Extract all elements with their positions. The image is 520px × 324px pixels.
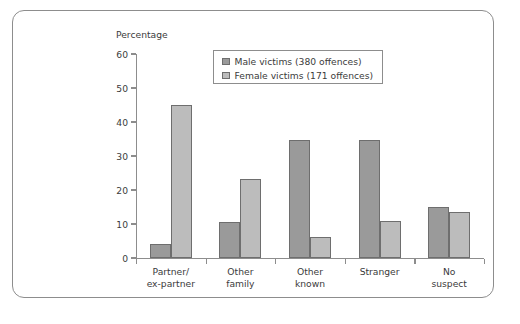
y-tick-mark: [131, 121, 136, 122]
x-tick-mark: [136, 259, 137, 264]
y-tick-mark: [131, 87, 136, 88]
y-tick-mark: [131, 223, 136, 224]
x-tick-mark: [414, 259, 415, 264]
x-axis-line: [136, 258, 484, 259]
y-axis-line: [136, 54, 137, 259]
legend-swatch-male-icon: [222, 58, 230, 66]
y-tick-label: 10: [102, 219, 128, 230]
x-tick-mark: [275, 259, 276, 264]
x-tick-label-line: known: [267, 278, 353, 290]
bar: [449, 212, 470, 258]
bar: [380, 221, 401, 258]
bar-chart: Percentage 0102030405060 Partner/ex-part…: [0, 0, 520, 324]
bar: [359, 140, 380, 258]
legend-entry-male: Male victims (380 offences): [222, 55, 382, 68]
y-tick-label: 40: [102, 117, 128, 128]
x-tick-label: Nosuspect: [406, 266, 492, 289]
y-tick-label: 50: [102, 83, 128, 94]
x-tick-label-line: suspect: [406, 278, 492, 290]
x-tick-label-line: No: [406, 266, 492, 278]
y-tick-mark: [131, 189, 136, 190]
bar: [150, 244, 171, 258]
legend-label-female: Female victims (171 offences): [235, 70, 374, 81]
y-tick-mark: [131, 155, 136, 156]
x-tick-mark: [484, 259, 485, 264]
bar: [428, 207, 449, 258]
bar: [310, 237, 331, 258]
bar: [240, 179, 261, 258]
x-tick-mark: [345, 259, 346, 264]
y-axis-title: Percentage: [116, 29, 168, 40]
legend-entry-female: Female victims (171 offences): [222, 69, 382, 82]
bar: [219, 222, 240, 258]
bar: [289, 140, 310, 258]
y-tick-mark: [131, 53, 136, 54]
y-tick-label: 30: [102, 151, 128, 162]
legend-swatch-female-icon: [222, 72, 230, 80]
legend-label-male: Male victims (380 offences): [235, 56, 362, 67]
bar: [171, 105, 192, 258]
x-tick-mark: [206, 259, 207, 264]
y-tick-label: 60: [102, 49, 128, 60]
y-tick-label: 0: [102, 253, 128, 264]
chart-legend: Male victims (380 offences) Female victi…: [213, 50, 383, 84]
y-tick-label: 20: [102, 185, 128, 196]
